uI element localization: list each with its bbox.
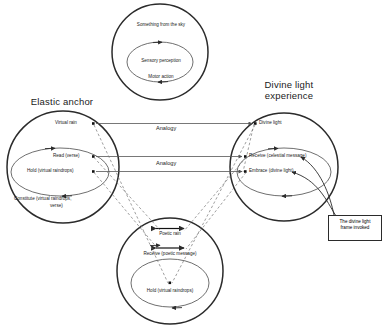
top-outer-circle xyxy=(112,4,208,100)
left-label-constitute-line2: verse) xyxy=(50,203,63,208)
left-frame-title: Elastic anchor xyxy=(14,97,110,108)
left-label-read-verse: Read (verse) xyxy=(53,153,80,158)
analogy-label-top: Analogy xyxy=(156,125,176,131)
dashed-left-read-to-poetic-rain xyxy=(94,158,160,231)
left-label-virtual-rain: Virtual rain xyxy=(55,120,77,125)
left-outer-circle xyxy=(7,111,119,223)
left-node-dot-virtual-rain xyxy=(92,122,95,125)
bottom-label-hold-virtual-raindrops: Hold (virtual raindrops) xyxy=(124,288,216,293)
top-inner-arrow-ccw xyxy=(158,82,168,83)
dashed-right-divine-light-to-hold xyxy=(172,125,255,283)
top-inner-label-motor: Motor action xyxy=(124,74,198,79)
diagram-vector-layer xyxy=(0,0,385,328)
right-node-dot-divine-light xyxy=(254,122,257,125)
top-outer-label: Something from the sky xyxy=(118,22,204,27)
callout-box: The divine light frame invoked xyxy=(328,215,382,241)
analogy-label-bottom: Analogy xyxy=(156,160,176,166)
right-outer-circle xyxy=(230,113,338,221)
dashed-left-hold-to-receive xyxy=(94,173,158,250)
top-inner-label-sensory: Sensory perception xyxy=(124,58,198,63)
dashed-right-internal xyxy=(243,124,254,172)
left-label-constitute-line1: Constitute (virtual raindrops, xyxy=(14,196,71,201)
top-frame-group xyxy=(112,4,208,100)
bottom-label-poetic-rain: Poetic rain xyxy=(140,231,200,236)
right-frame-title-line2: experience xyxy=(240,91,338,102)
dashed-right-embrace-to-receive xyxy=(186,173,246,250)
right-label-receive-celestial-message: Receive (celestial message) xyxy=(249,153,306,158)
right-node-dot-embrace xyxy=(244,170,247,173)
left-label-hold-virtual-raindrops: Hold (virtual raindrops) xyxy=(27,168,73,173)
bottom-label-receive-poetic-message: Receive (poetic message) xyxy=(124,251,216,256)
right-label-embrace-divine-light: Embrace (divine light) xyxy=(249,168,293,173)
callout-line2: frame invoked xyxy=(331,225,379,231)
bottom-node-dot-hold xyxy=(169,282,172,285)
right-label-divine-light: Divine light xyxy=(259,120,281,125)
diagram-canvas: Elastic anchor Divine light experience S… xyxy=(0,0,385,328)
left-frame-group xyxy=(7,111,119,223)
right-frame-group xyxy=(230,113,338,221)
